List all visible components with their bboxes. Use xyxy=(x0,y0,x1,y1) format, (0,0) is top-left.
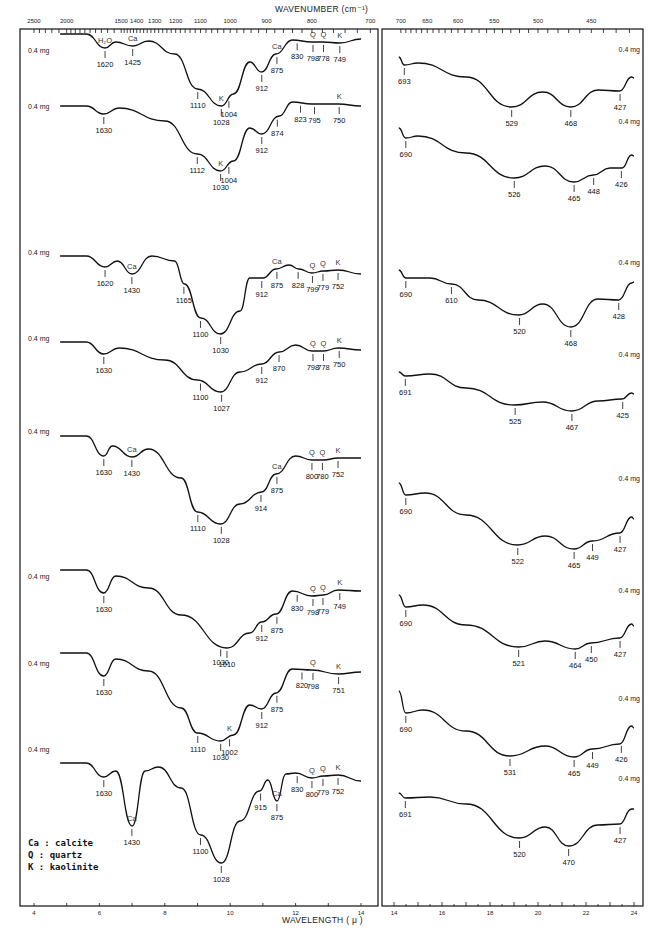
peak-label: 1620 xyxy=(97,279,114,288)
tick-label: 1200 xyxy=(169,18,183,24)
peak-label: 875 xyxy=(271,705,284,714)
peak-label: 467 xyxy=(566,423,579,432)
assignment-label: K xyxy=(336,446,341,455)
peak-label: 1100 xyxy=(192,330,208,339)
peak-label: 1430 xyxy=(124,469,141,478)
assignment-label: K xyxy=(227,724,232,733)
peak-label: 875 xyxy=(271,66,284,75)
tick-label: 500 xyxy=(533,18,544,24)
spectrum-curve xyxy=(399,270,634,327)
peak-label: 522 xyxy=(512,557,525,566)
legend-quartz: Q : quartz xyxy=(28,850,82,860)
spectrum-curve xyxy=(60,763,361,863)
peak-label: 1110 xyxy=(190,101,206,110)
peak-label: 750 xyxy=(333,116,346,125)
sample-mass: 0.4 mg xyxy=(28,249,50,257)
peak-label: 828 xyxy=(292,281,305,290)
assignment-label: Ca xyxy=(128,34,138,43)
assignment-label: K xyxy=(336,763,341,772)
assignment-label: Ca xyxy=(127,445,137,454)
legend: Ca : calcite Q : quartz K : kaolinite xyxy=(28,838,99,872)
tick-label: 900 xyxy=(262,18,273,24)
tick-label: 1000 xyxy=(224,18,238,24)
peak-label: 1630 xyxy=(95,468,112,477)
peak-label: 779 xyxy=(317,607,330,616)
peak-label: 778 xyxy=(317,363,330,372)
peak-label: 750 xyxy=(333,360,346,369)
peak-label: 449 xyxy=(586,553,599,562)
spectrum-curve xyxy=(399,595,634,649)
tick-label: 450 xyxy=(586,18,597,24)
peak-label: 912 xyxy=(255,84,268,93)
sample-mass: 0.4 mg xyxy=(619,587,641,595)
assignment-label: Q xyxy=(310,261,316,270)
peak-label: 778 xyxy=(317,54,330,63)
peak-label: 912 xyxy=(255,721,268,730)
assignment-label: Q xyxy=(320,583,326,592)
peak-label: 526 xyxy=(508,190,521,199)
spectrum-right-6: 0.4 mg690521464450427 xyxy=(399,587,640,670)
peak-label: 914 xyxy=(255,504,268,513)
peak-label: 427 xyxy=(614,103,627,112)
peak-label: 752 xyxy=(332,787,345,796)
peak-label: 915 xyxy=(254,803,267,812)
tick-label: 16 xyxy=(439,910,446,916)
tick-label: 800 xyxy=(307,18,318,24)
peak-label: 1165 xyxy=(176,296,192,305)
tick-label: 600 xyxy=(453,18,464,24)
peak-label: 1100 xyxy=(192,393,208,402)
top-axis-title: WAVENUMBER (cm⁻¹) xyxy=(275,4,368,14)
spectrum-curve xyxy=(399,793,634,846)
assignment-label: Q xyxy=(310,339,316,348)
peak-label: 610 xyxy=(445,296,458,305)
tick-label: 1500 xyxy=(115,18,129,24)
spectrum-right-7: 0.4 mg690531465449426 xyxy=(399,691,640,778)
ir-spectra-figure: WAVENUMBER (cm⁻¹) WAVELENGTH ( μ ) 25002… xyxy=(0,0,663,930)
tick-label: 4 xyxy=(32,910,36,916)
spectrum-curve xyxy=(60,256,361,334)
peak-label: 465 xyxy=(568,561,581,570)
sample-mass: 0.4 mg xyxy=(619,46,641,54)
sample-mass: 0.4 mg xyxy=(619,775,641,783)
tick-label: 10 xyxy=(227,910,234,916)
peak-label: 1100 xyxy=(192,847,208,856)
tick-label: 2500 xyxy=(27,18,41,24)
sample-mass: 0.4 mg xyxy=(28,660,50,668)
peak-label: 1030 xyxy=(212,658,229,667)
peak-label: 520 xyxy=(513,327,526,336)
assignment-label: Ca xyxy=(127,814,137,823)
peak-label: 1112 xyxy=(189,166,205,175)
assignment-label: K xyxy=(337,92,342,101)
peak-label: 1004 xyxy=(221,176,238,185)
peak-label: 875 xyxy=(271,281,284,290)
legend-kaolinite: K : kaolinite xyxy=(28,862,99,872)
tick-label: 12 xyxy=(292,910,299,916)
peak-label: 749 xyxy=(334,55,347,64)
spectrum-left-4: 0.4 mg163011001027912870798Q778Q750K xyxy=(28,335,361,413)
peak-label: 912 xyxy=(255,290,268,299)
peak-label: 874 xyxy=(271,129,284,138)
assignment-label: Q xyxy=(309,448,315,457)
peak-label: 468 xyxy=(565,119,578,128)
peak-label: 427 xyxy=(614,836,627,845)
tick-label: 6 xyxy=(98,910,102,916)
assignment-label: K xyxy=(337,336,342,345)
tick-label: 1400 xyxy=(130,18,144,24)
tick-label: 700 xyxy=(365,18,376,24)
tick-label: 1100 xyxy=(194,18,208,24)
peak-label: 912 xyxy=(255,376,268,385)
peak-label: 1004 xyxy=(221,110,238,119)
peak-label: 691 xyxy=(399,388,412,397)
sample-mass: 0.4 mg xyxy=(619,695,641,703)
peak-label: 1002 xyxy=(221,748,238,757)
spectrum-left-1: 0.4 mg1620H₂O1425Ca11101028K1004912875Ca… xyxy=(28,30,361,127)
peak-label: 875 xyxy=(271,813,284,822)
peak-label: 779 xyxy=(317,283,330,292)
peak-label: 468 xyxy=(565,339,578,348)
peak-label: 752 xyxy=(332,282,345,291)
peak-label: 1630 xyxy=(95,366,112,375)
peak-label: 520 xyxy=(513,850,526,859)
tick-label: 1300 xyxy=(148,18,162,24)
peak-label: 752 xyxy=(332,470,345,479)
spectrum-left-5: 0.4 mg16301430Ca11101028914875Ca800Q780Q… xyxy=(28,428,361,545)
